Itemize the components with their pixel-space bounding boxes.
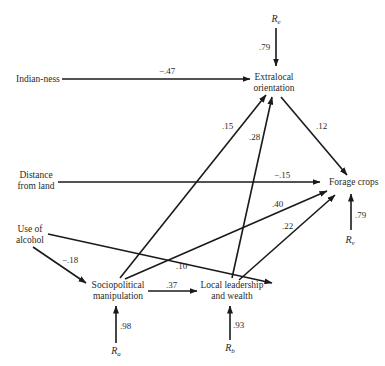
edge-socio-extralocal [120,95,266,278]
node-forage: Forage crops [329,177,379,187]
node-alcohol-line1: Use of [17,224,43,234]
coef-indianness-extralocal: −.47 [159,66,176,76]
coef-alcohol-leadership: .10 [176,261,188,271]
coef-socio-forage: .40 [272,199,284,209]
residual-rb: Rb [224,342,235,355]
node-indianness: Indian-ness [16,74,60,84]
coef-alcohol-socio: −.18 [62,255,79,265]
coef-socio-leadership: .37 [166,280,178,290]
coef-socio-extralocal: .15 [222,121,234,131]
edge-alcohol-leadership [48,234,272,283]
coef-leadership-forage: .22 [282,221,293,231]
node-socio-line2: manipulation [93,291,143,301]
coef-leadership-extralocal: .28 [249,132,261,142]
edge-leadership-extralocal [232,97,272,278]
residual-ra: Ra [110,345,121,358]
coef-rv: .79 [355,210,367,220]
node-leadership-line1: Local leadership [200,280,263,290]
coef-re: .79 [259,42,271,52]
node-leadership-line2: and wealth [211,291,253,301]
path-diagram: Indian-ness Extralocal orientation Dista… [0,0,385,366]
coef-extralocal-forage: .12 [316,121,327,131]
node-extralocal-line1: Extralocal [254,72,293,82]
node-alcohol-line2: alcohol [16,235,44,245]
node-extralocal-line2: orientation [253,83,294,93]
coef-ra: .98 [120,321,132,331]
coef-distance-forage: −.15 [274,170,291,180]
node-distance-line1: Distance [19,170,52,180]
edge-alcohol-socio [33,247,86,283]
coef-rb: .93 [233,320,245,330]
edge-extralocal-forage [281,97,347,175]
node-distance-line2: from land [17,181,54,191]
residual-re: Re [270,13,280,26]
residual-rv: Rv [344,234,355,247]
node-socio-line1: Sociopolitical [92,280,145,290]
